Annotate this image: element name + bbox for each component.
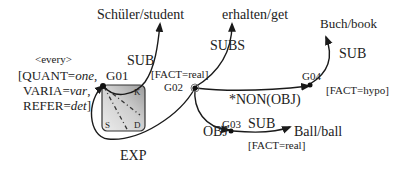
- box-corner-d: D: [134, 120, 141, 130]
- varia-value: var: [70, 83, 88, 98]
- annotation-quant: [QUANT=one,: [18, 68, 97, 83]
- edge-label-g02-obj: OBJ: [203, 124, 228, 139]
- refer-end: ]: [87, 98, 91, 113]
- varia-key: VARIA=: [23, 83, 70, 98]
- concept-ball: Ball/ball: [294, 124, 342, 139]
- refer-key: REFER=: [23, 98, 71, 113]
- edge-label-g02-exp: EXP: [120, 148, 147, 163]
- edge-label-g04-sub: SUB: [339, 46, 366, 61]
- edge-label-g02-nonobj: *NON(OBJ): [229, 92, 301, 108]
- g01-quantifier-box: K S D: [102, 85, 145, 131]
- quant-value: one: [75, 68, 94, 83]
- concept-student: Schüler/student: [97, 7, 184, 22]
- refer-value: det: [71, 98, 87, 113]
- node-g01: [100, 83, 106, 89]
- annotation-refer: REFER=det]: [23, 98, 91, 113]
- concept-book: Buch/book: [320, 16, 378, 31]
- g01-annotation: <every> [QUANT=one, VARIA=var, REFER=det…: [18, 53, 97, 113]
- edge-label-g03-sub: SUB: [248, 116, 275, 131]
- node-g04: [308, 83, 313, 88]
- box-corner-s: S: [105, 120, 110, 130]
- node-g02-label: G02: [164, 81, 183, 93]
- node-g04-fact: [FACT=hypo]: [326, 84, 389, 96]
- node-g02: [192, 85, 197, 90]
- edge-label-g01-sub: SUB: [127, 53, 154, 68]
- semantic-network-diagram: K S D G01 G02 [FACT=real] G04 [FACT=hypo…: [0, 0, 414, 172]
- node-g01-label: G01: [106, 68, 128, 83]
- node-g02-fact: [FACT=real]: [151, 68, 208, 80]
- quant-sep: ,: [94, 68, 97, 83]
- quant-key: [QUANT=: [18, 68, 75, 83]
- varia-sep: ,: [87, 83, 90, 98]
- node-g03-fact: [FACT=real]: [248, 139, 305, 151]
- annotation-every: <every>: [35, 53, 72, 65]
- concept-get: erhalten/get: [222, 7, 288, 22]
- annotation-varia: VARIA=var,: [23, 83, 90, 98]
- edge-label-g02-subs: SUBS: [210, 38, 245, 53]
- node-g04-label: G04: [302, 70, 321, 82]
- edge-g02-nonobj-g04: [195, 86, 309, 90]
